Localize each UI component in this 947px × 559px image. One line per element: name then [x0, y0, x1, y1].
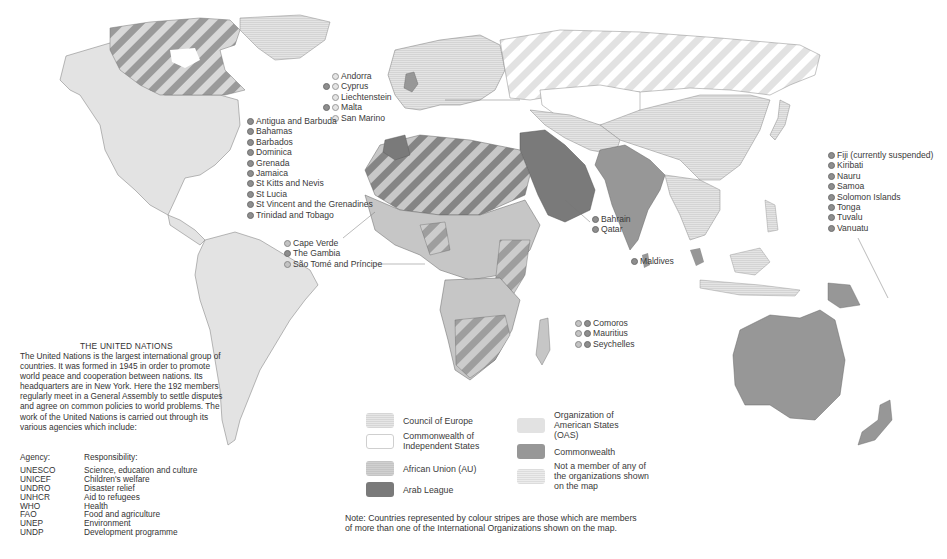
commonwealth-dot-icon [828, 204, 835, 211]
list-item: Samoa [828, 181, 933, 191]
legend-item-council-of-europe: Council of Europe [366, 413, 473, 428]
philippines [765, 200, 778, 232]
legend-item-commonwealth: Commonwealth [517, 444, 615, 459]
commonwealth-dot-icon [247, 149, 254, 156]
agency-header: Agency: [20, 453, 84, 462]
callout-caribbean: Antigua and Barbuda Bahamas Barbados Dom… [247, 116, 373, 220]
list-item: Tuvalu [828, 212, 933, 222]
leader-line [858, 238, 888, 298]
commonwealth-swatch-icon [517, 444, 545, 459]
commonwealth-dot-icon [247, 170, 254, 177]
not-member-swatch-icon [517, 469, 545, 484]
commonwealth-dot-icon [247, 212, 254, 219]
europe [388, 35, 505, 110]
list-item: Fiji (currently suspended) [828, 150, 933, 160]
commonwealth-dot-icon [247, 160, 254, 167]
legend-item-oas: Organization of American States (OAS) [517, 410, 634, 440]
callout-pacific: Fiji (currently suspended) Kiribati Naur… [828, 150, 933, 233]
list-item: Mauritius [575, 328, 635, 338]
map-legend: Council of Europe Commonwealth of Indepe… [366, 410, 666, 500]
list-item: Liechtenstein [332, 92, 392, 102]
list-item: Grenada [247, 158, 373, 168]
greenland [240, 15, 330, 60]
list-item: Seychelles [575, 339, 635, 349]
malaysia [690, 248, 704, 266]
commonwealth-dot-icon [828, 162, 835, 169]
list-item: São Tomé and Príncipe [284, 259, 382, 269]
list-item: Malta [323, 102, 392, 112]
australia [733, 310, 845, 420]
agency-table: Agency: Responsibility: UNESCOScience, e… [20, 453, 197, 537]
legend-item-not-member: Not a member of any of the organizations… [517, 461, 652, 491]
commonwealth-dot-icon [247, 191, 254, 198]
cis-swatch-icon [366, 434, 394, 449]
commonwealth-dot-icon [828, 152, 835, 159]
commonwealth-dot-icon [247, 118, 254, 125]
african-union-dot-icon [284, 261, 291, 268]
commonwealth-dot-icon [247, 201, 254, 208]
commonwealth-dot-icon [828, 183, 835, 190]
central-america [168, 215, 205, 245]
arab-league-swatch-icon [366, 482, 394, 497]
list-item: The Gambia [284, 248, 382, 258]
list-item: Bahamas [247, 126, 373, 136]
commonwealth-dot-icon [828, 173, 835, 180]
callout-indian-ocean: Comoros Mauritius Seychelles [575, 318, 635, 349]
agency-table-header: Agency: Responsibility: [20, 453, 197, 462]
commonwealth-dot-icon [247, 128, 254, 135]
list-item: Andorra [332, 71, 392, 81]
map-note: Note: Countries represented by colour st… [345, 513, 637, 534]
list-item: Antigua and Barbuda [247, 116, 373, 126]
borneo [730, 248, 770, 275]
commonwealth-dot-icon [584, 341, 591, 348]
list-item: St Lucia [247, 189, 373, 199]
madagascar [536, 318, 550, 365]
list-item: Comoros [575, 318, 635, 328]
african-union-dot-icon [575, 341, 582, 348]
arab-league-dot-icon [592, 216, 599, 223]
list-item: Qatar [592, 224, 631, 234]
un-title: THE UNITED NATIONS [80, 341, 173, 351]
commonwealth-dot-icon [828, 194, 835, 201]
legend-item-cis: Commonwealth of Independent States [366, 431, 503, 451]
new-zealand [858, 400, 892, 445]
list-item: Bahrain [592, 214, 631, 224]
southeast-asia [665, 175, 720, 240]
arab-league-dot-icon [592, 226, 599, 233]
indonesia [700, 280, 800, 296]
list-item: Dominica [247, 147, 373, 157]
commonwealth-dot-icon [323, 83, 330, 90]
callout-gulf: Bahrain Qatar [592, 214, 631, 235]
list-item: Kiribati [828, 160, 933, 170]
list-item: Barbados [247, 137, 373, 147]
list-item: Vanuatu [828, 223, 933, 233]
council-of-europe-dot-icon [332, 83, 339, 90]
papua-new-guinea [828, 283, 860, 308]
commonwealth-dot-icon [323, 104, 330, 111]
list-item: Maldives [631, 256, 674, 266]
japan [770, 100, 790, 140]
commonwealth-dot-icon [828, 214, 835, 221]
table-row: UNDPDevelopment programme [20, 528, 197, 537]
council-of-europe-dot-icon [332, 104, 339, 111]
commonwealth-dot-icon [284, 250, 291, 257]
legend-item-african-union: African Union (AU) [366, 461, 476, 476]
african-union-dot-icon [575, 320, 582, 327]
callout-maldives: Maldives [631, 256, 674, 266]
list-item: Tonga [828, 202, 933, 212]
list-item: Cape Verde [284, 238, 382, 248]
commonwealth-dot-icon [828, 225, 835, 232]
african-union-dot-icon [284, 240, 291, 247]
list-item: Jamaica [247, 168, 373, 178]
callout-west-africa: Cape Verde The Gambia São Tomé and Prínc… [284, 238, 382, 269]
map-title-fragment [764, 0, 774, 4]
council-of-europe-dot-icon [332, 73, 339, 80]
list-item: St Vincent and the Grenadines [247, 199, 373, 209]
african-union-swatch-icon [366, 461, 394, 476]
un-description: The United Nations is the largest intern… [20, 351, 230, 432]
southern-africa-cw [455, 315, 510, 378]
commonwealth-dot-icon [584, 320, 591, 327]
list-item: Trinidad and Tobago [247, 210, 373, 220]
commonwealth-dot-icon [247, 180, 254, 187]
commonwealth-dot-icon [247, 139, 254, 146]
